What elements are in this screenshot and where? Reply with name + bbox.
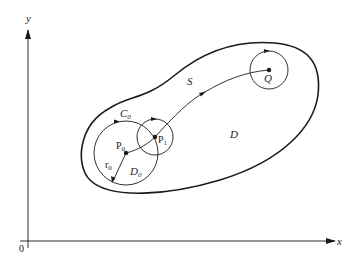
- point-p1: [153, 135, 157, 139]
- diagram-canvas: y x 0 P0 P1 Q C0 D0 r0 S D: [0, 0, 353, 267]
- label-q: Q: [264, 72, 272, 84]
- y-axis-label: y: [25, 12, 31, 24]
- label-p0: P0: [116, 140, 126, 153]
- path-s: [126, 70, 269, 153]
- c0-direction-arrow-icon: [114, 120, 120, 124]
- q-circle-direction-arrow-icon: [264, 49, 270, 53]
- label-p1: P1: [158, 134, 168, 147]
- radius-r0: [113, 153, 126, 181]
- origin-label: 0: [19, 243, 24, 254]
- region-d-boundary: [81, 42, 318, 193]
- label-r0: r0: [105, 159, 112, 172]
- axes: y x 0: [19, 12, 342, 254]
- label-s: S: [187, 75, 193, 87]
- p1-circle-direction-arrow-icon: [151, 117, 157, 121]
- x-axis-label: x: [336, 235, 342, 247]
- label-c0: C0: [120, 107, 131, 121]
- label-d0: D0: [129, 165, 142, 179]
- label-d: D: [229, 128, 238, 140]
- path-s-direction-arrow-icon: [199, 92, 206, 97]
